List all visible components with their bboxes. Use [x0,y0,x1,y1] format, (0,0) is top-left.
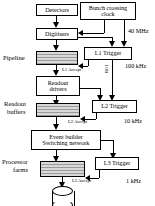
memory-stack-processor-farms[interactable] [40,161,85,177]
edge-clock-to-l1-v [124,20,125,42]
node-l1-trigger[interactable]: L1 Trigger [84,47,132,60]
edge-l3-accept-v [99,170,100,178]
node-readout-drivers[interactable]: Readout drivers [36,76,80,96]
edge-l1-accept-v [88,60,89,66]
edge-readout-drivers-right-h [80,88,100,89]
edge-clock-to-digitisers-v [104,20,105,33]
edge-label-l2-accept: L2 Accept [68,120,87,125]
edge-label-l3-accept: L3 Accept [72,179,91,184]
rate-label-10khz: 10 kHz [124,118,142,124]
storage-cylinder-icon[interactable] [52,186,73,206]
edge-roi-v [112,60,113,96]
edge-label-roi: ROI [105,65,110,73]
node-bunch-crossing-clock[interactable]: Bunch crossing clock [80,2,136,20]
edge-event-builder-right-v [113,140,114,154]
memory-stack-readout-buffers[interactable] [36,103,80,117]
edge-l1-accept-h [83,66,88,67]
node-digitisers[interactable]: Digitisers [36,28,78,40]
node-readout-drivers-label-2: drivers [49,86,66,92]
node-detectors[interactable]: Detectors [36,4,78,16]
node-event-builder[interactable]: Event builder Switching network [31,130,101,150]
side-label-processor-farms-1: Processor [2,159,28,166]
node-l3-trigger[interactable]: L3 Trigger [95,157,139,170]
arrowhead-clock-to-digitisers [78,30,83,36]
diagram-canvas: Detectors Bunch crossing clock Digitiser… [0,0,155,206]
edge-l3-accept-h [90,178,99,179]
side-label-processor-farms-2: farms [13,167,28,174]
storage-cylinder-bottom [52,200,73,206]
edge-clock-to-digitisers-h [83,33,104,34]
node-l2-trigger-label: L2 Trigger [101,103,128,109]
node-digitisers-label: Digitisers [45,31,69,37]
side-label-pipeline: Pipeline [3,55,25,62]
side-label-readout-buffers-2: buffers [7,109,26,116]
rate-label-1khz: 1 kHz [126,178,141,184]
node-event-builder-label-2: Switching network [43,140,90,146]
node-detectors-label: Detectors [45,7,69,13]
node-l1-trigger-label: L1 Trigger [95,50,122,56]
rate-label-100khz: 100 kHz [125,63,146,69]
edge-label-l1-accept: L1 Accept [62,68,81,73]
node-bunch-crossing-clock-label-2: clock [101,11,114,17]
edge-l2-accept-v [96,113,97,119]
node-l3-trigger-label: L3 Trigger [104,160,131,166]
side-label-readout-buffers-1: Readout [4,101,26,108]
rate-label-40mhz: 40 MHz [128,28,148,34]
edge-event-builder-right-h [101,140,113,141]
memory-stack-pipeline[interactable] [36,51,78,65]
node-l2-trigger[interactable]: L2 Trigger [92,100,137,113]
storage-cylinder-top [52,186,73,196]
edge-digitisers-to-l1-h [78,37,112,38]
